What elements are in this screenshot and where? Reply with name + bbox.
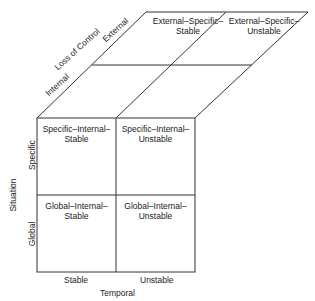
cell-text-line2: Stable [148, 26, 228, 36]
cell-text-line1: External–Specific– [224, 16, 304, 26]
cell-text-line2: Stable [37, 134, 116, 144]
cell-text-line1: Global–Internal– [37, 201, 116, 211]
situation-tick-specific: Specific [27, 135, 37, 175]
cell-external-specific-stable: External–Specific– Stable [148, 16, 228, 36]
cell-text-line2: Unstable [116, 211, 195, 221]
situation-tick-global: Global [27, 214, 37, 254]
cell-text-line2: Unstable [224, 26, 304, 36]
temporal-axis-title: Temporal [100, 288, 135, 298]
cell-specific-internal-stable: Specific–Internal– Stable [37, 124, 116, 144]
cell-global-internal-stable: Global–Internal– Stable [37, 201, 116, 221]
cube-diagram-lines [0, 0, 315, 301]
temporal-tick-unstable: Unstable [140, 275, 174, 285]
cell-text-line1: Global–Internal– [116, 201, 195, 211]
cell-specific-internal-unstable: Specific–Internal– Unstable [116, 124, 195, 144]
cell-text-line2: Stable [37, 211, 116, 221]
cell-text-line1: Specific–Internal– [37, 124, 116, 134]
cell-text-line1: External–Specific– [148, 16, 228, 26]
cell-text-line2: Unstable [116, 134, 195, 144]
cell-global-internal-unstable: Global–Internal– Unstable [116, 201, 195, 221]
cell-external-specific-unstable: External–Specific– Unstable [224, 16, 304, 36]
situation-axis-title: Situation [8, 175, 18, 215]
cell-text-line1: Specific–Internal– [116, 124, 195, 134]
temporal-tick-stable: Stable [64, 275, 88, 285]
